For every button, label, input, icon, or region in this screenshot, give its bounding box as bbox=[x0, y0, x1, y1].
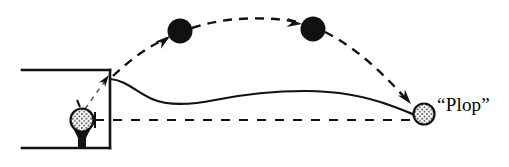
landing-golf-ball bbox=[414, 104, 435, 125]
flight-ball-2 bbox=[301, 17, 326, 42]
golf-ball-on-tee bbox=[71, 100, 94, 148]
trajectory-apex-segment bbox=[192, 18, 300, 28]
tee-pointer-dashes bbox=[85, 78, 107, 109]
horizontal-reference-line bbox=[95, 112, 418, 128]
tee-box bbox=[22, 70, 110, 148]
trajectory-descending-segment bbox=[325, 32, 405, 98]
tee-to-corner-dashed-pointer bbox=[85, 73, 112, 109]
plop-label: “Plop” bbox=[437, 95, 490, 114]
terrain-profile-curve bbox=[110, 79, 422, 118]
ball-flight-trajectory bbox=[113, 18, 405, 98]
golf-trajectory-figure: “Plop” bbox=[0, 0, 509, 167]
terrain-path bbox=[110, 79, 422, 118]
trajectory-ascending-segment bbox=[113, 38, 168, 76]
figure-canvas bbox=[0, 0, 509, 167]
arrowhead-apex-icon bbox=[287, 18, 303, 29]
trajectory-arrowheads bbox=[155, 18, 414, 107]
teed-ball-top-mark bbox=[77, 100, 80, 107]
flight-ball-1 bbox=[168, 19, 193, 44]
teed-ball-body bbox=[71, 109, 94, 132]
